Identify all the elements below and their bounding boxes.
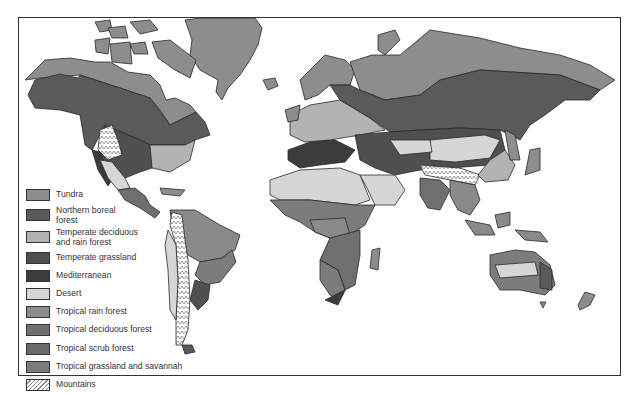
legend-swatch-temperate-deciduous bbox=[26, 231, 50, 243]
africa-desert bbox=[270, 168, 370, 205]
legend-label: Tropical grassland and savannah bbox=[56, 362, 182, 372]
legend-item-tropical-rain: Tropical rain forest bbox=[26, 304, 186, 321]
india-deciduous bbox=[420, 178, 450, 210]
legend-label: Tropical deciduous forest bbox=[56, 325, 152, 335]
legend-item-mountains: Mountains bbox=[26, 377, 186, 394]
legend-swatch-tropical-savannah bbox=[26, 361, 50, 373]
legend-swatch-tropical-rain bbox=[26, 306, 50, 318]
legend-swatch-tropical-deciduous bbox=[26, 324, 50, 336]
legend-swatch-mountains bbox=[26, 379, 50, 391]
asia-desert bbox=[430, 135, 500, 162]
legend-swatch-boreal bbox=[26, 209, 50, 221]
legend-swatch-desert bbox=[26, 288, 50, 300]
australia-desert bbox=[495, 262, 538, 278]
legend-label: Northern boreal forest bbox=[56, 206, 116, 225]
legend-item-temperate-grassland: Temperate grassland bbox=[26, 250, 186, 267]
legend-label: Tropical scrub forest bbox=[56, 344, 134, 354]
map-legend: TundraNorthern boreal forestTemperate de… bbox=[26, 187, 186, 395]
legend-label: Mountains bbox=[56, 380, 96, 390]
legend-item-tropical-deciduous: Tropical deciduous forest bbox=[26, 322, 186, 339]
legend-label: Tropical rain forest bbox=[56, 307, 127, 317]
legend-label: Temperate deciduous and rain forest bbox=[56, 228, 138, 247]
legend-item-tropical-scrub: Tropical scrub forest bbox=[26, 341, 186, 358]
legend-item-tropical-savannah: Tropical grassland and savannah bbox=[26, 359, 186, 376]
legend-item-boreal: Northern boreal forest bbox=[26, 205, 186, 226]
legend-swatch-temperate-grassland bbox=[26, 252, 50, 264]
legend-swatch-tropical-scrub bbox=[26, 343, 50, 355]
legend-item-temperate-deciduous: Temperate deciduous and rain forest bbox=[26, 227, 186, 248]
legend-swatch-tundra bbox=[26, 189, 50, 201]
greenland bbox=[185, 18, 262, 100]
legend-item-tundra: Tundra bbox=[26, 187, 186, 204]
legend-label: Temperate grassland bbox=[56, 253, 136, 263]
legend-swatch-mediterranean bbox=[26, 270, 50, 282]
legend-item-mediterranean: Mediterranean bbox=[26, 268, 186, 285]
legend-item-desert: Desert bbox=[26, 286, 186, 303]
legend-label: Mediterranean bbox=[56, 271, 111, 281]
legend-label: Desert bbox=[56, 289, 81, 299]
legend-label: Tundra bbox=[56, 190, 83, 200]
